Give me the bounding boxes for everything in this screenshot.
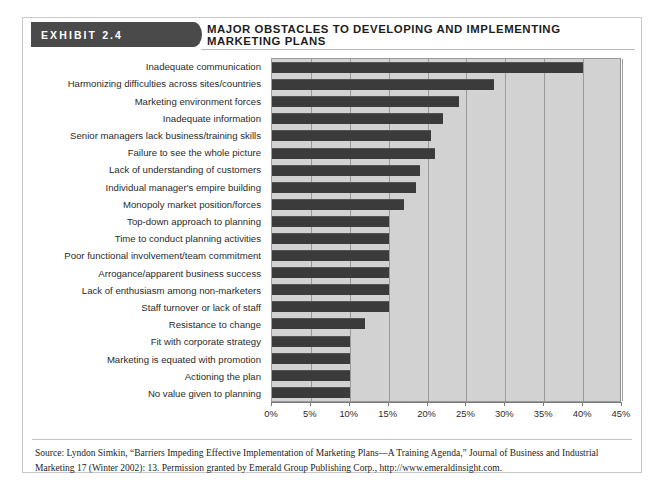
- exhibit-tag: EXHIBIT 2.4: [31, 22, 189, 47]
- bar-chart: Inadequate communicationHarmonizing diff…: [23, 52, 641, 437]
- category-label: Monopoly market position/forces: [23, 196, 268, 213]
- category-axis-labels: Inadequate communicationHarmonizing diff…: [23, 58, 268, 402]
- bar: [272, 182, 416, 193]
- x-tick-label: 25%: [456, 408, 475, 419]
- category-label: Marketing environment forces: [23, 92, 268, 109]
- x-tick-label: 45%: [612, 408, 631, 419]
- bar-row: [272, 59, 620, 76]
- x-tick: [310, 402, 311, 406]
- x-tick-label: 5%: [303, 408, 317, 419]
- bar-series: [272, 59, 620, 401]
- bar-row: [272, 196, 620, 213]
- x-tick-label: 20%: [417, 408, 436, 419]
- bar: [272, 165, 420, 176]
- plot-area: [271, 58, 621, 402]
- category-label: Actioning the plan: [23, 368, 268, 385]
- source-note: Source: Lyndon Simkin, “Barriers Impedin…: [35, 446, 631, 475]
- bar-row: [272, 333, 620, 350]
- category-label: Poor functional involvement/team commitm…: [23, 247, 268, 264]
- bar-row: [272, 76, 620, 93]
- bar: [272, 284, 389, 295]
- category-label: Time to conduct planning activities: [23, 230, 268, 247]
- x-tick: [349, 402, 350, 406]
- bar: [272, 267, 389, 278]
- bar-row: [272, 162, 620, 179]
- category-label: Fit with corporate strategy: [23, 333, 268, 350]
- x-tick: [465, 402, 466, 406]
- bar-row: [272, 230, 620, 247]
- x-axis-line: [271, 402, 621, 403]
- category-label: Individual manager's empire building: [23, 178, 268, 195]
- bar: [272, 318, 365, 329]
- bar-row: [272, 315, 620, 332]
- exhibit-title: MAJOR OBSTACLES TO DEVELOPING AND IMPLEM…: [207, 22, 635, 47]
- bar: [272, 387, 350, 398]
- x-tick-label: 40%: [573, 408, 592, 419]
- bar-row: [272, 127, 620, 144]
- x-tick: [271, 402, 272, 406]
- bar-row: [272, 367, 620, 384]
- x-tick-label: 10%: [339, 408, 358, 419]
- bar: [272, 130, 431, 141]
- exhibit-tag-wedge: [180, 22, 202, 47]
- category-label: Arrogance/apparent business success: [23, 264, 268, 281]
- bar: [272, 62, 583, 73]
- bar-row: [272, 384, 620, 401]
- bar: [272, 301, 389, 312]
- category-label: Failure to see the whole picture: [23, 144, 268, 161]
- bar-row: [272, 179, 620, 196]
- bar: [272, 233, 389, 244]
- bar: [272, 370, 350, 381]
- bar: [272, 250, 389, 261]
- category-label: Harmonizing difficulties across sites/co…: [23, 75, 268, 92]
- bar-row: [272, 281, 620, 298]
- category-label: Inadequate information: [23, 110, 268, 127]
- x-tick: [388, 402, 389, 406]
- x-tick: [621, 402, 622, 406]
- x-tick: [582, 402, 583, 406]
- bar: [272, 148, 435, 159]
- bar-row: [272, 350, 620, 367]
- category-label: Resistance to change: [23, 316, 268, 333]
- x-tick: [543, 402, 544, 406]
- bar-row: [272, 298, 620, 315]
- x-tick-label: 15%: [378, 408, 397, 419]
- header-divider: [201, 49, 635, 50]
- bar-row: [272, 213, 620, 230]
- category-label: Top-down approach to planning: [23, 213, 268, 230]
- bar-row: [272, 264, 620, 281]
- bar-row: [272, 247, 620, 264]
- bar: [272, 353, 350, 364]
- x-tick: [504, 402, 505, 406]
- category-label: Staff turnover or lack of staff: [23, 299, 268, 316]
- category-label: Senior managers lack business/training s…: [23, 127, 268, 144]
- category-label: Inadequate communication: [23, 58, 268, 75]
- bar: [272, 79, 494, 90]
- bar: [272, 199, 404, 210]
- category-label: Lack of understanding of customers: [23, 161, 268, 178]
- bar-row: [272, 110, 620, 127]
- bar: [272, 336, 350, 347]
- bar-row: [272, 144, 620, 161]
- bar: [272, 113, 443, 124]
- category-label: No value given to planning: [23, 385, 268, 402]
- source-divider: [32, 439, 632, 440]
- exhibit-header: EXHIBIT 2.4 MAJOR OBSTACLES TO DEVELOPIN…: [23, 18, 641, 51]
- bar: [272, 96, 459, 107]
- x-tick-label: 35%: [534, 408, 553, 419]
- x-tick-label: 0%: [264, 408, 278, 419]
- bar: [272, 216, 389, 227]
- gridline: [622, 59, 623, 401]
- x-tick: [427, 402, 428, 406]
- category-label: Marketing is equated with promotion: [23, 350, 268, 367]
- category-label: Lack of enthusiasm among non-marketers: [23, 282, 268, 299]
- exhibit-card: EXHIBIT 2.4 MAJOR OBSTACLES TO DEVELOPIN…: [22, 17, 642, 473]
- x-tick-label: 30%: [495, 408, 514, 419]
- bar-row: [272, 93, 620, 110]
